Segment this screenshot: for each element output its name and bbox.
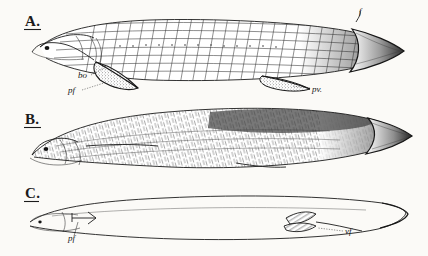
panel-c-letter: C. [25,185,40,201]
panel-a-letter-group: A. [24,13,41,30]
panel-a-eye [45,46,50,50]
panel-a-label-pv: pv. [311,84,322,94]
panel-a-letter: A. [25,13,40,29]
panel-c-eye [38,221,41,224]
panel-a-label-bo: bo [78,70,88,80]
plate-canvas: A. [0,0,428,256]
panel-c-letter-group: C. [24,185,40,202]
panel-b-letter: B. [25,111,39,127]
illustration-plate: A. [0,0,428,256]
panel-b-letter-group: B. [24,111,41,128]
panel-b-eye [44,147,49,151]
